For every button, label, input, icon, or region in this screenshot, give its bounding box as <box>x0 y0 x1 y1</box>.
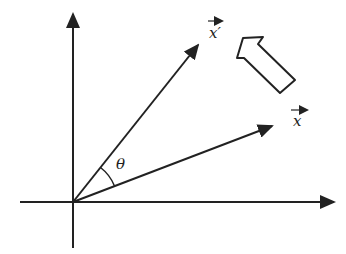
svg-text:x′: x′ <box>209 24 221 42</box>
theta-arc-icon <box>101 168 115 187</box>
svg-text:x: x <box>293 112 302 130</box>
rotation-direction-arrow-icon <box>237 37 295 93</box>
rotation-diagram: θ x′ x <box>0 0 346 254</box>
theta-label: θ <box>116 155 125 173</box>
label-x-prime: x′ <box>208 21 222 42</box>
label-x: x <box>291 110 307 130</box>
